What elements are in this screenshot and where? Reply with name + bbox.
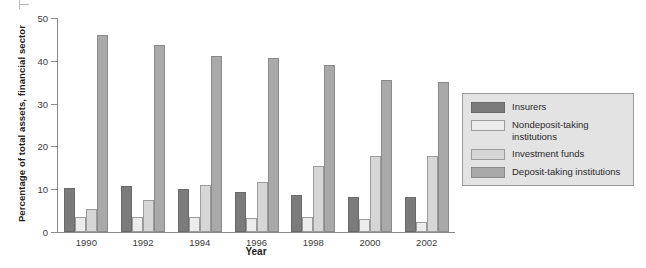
- bar: [97, 35, 108, 232]
- plot-area: 01020304050 1990199219941996199820002002: [57, 18, 455, 233]
- bar-group: 1990: [58, 18, 115, 232]
- y-axis-title: Percentage of total assets, financial se…: [16, 16, 27, 231]
- bar: [200, 185, 211, 232]
- bar: [359, 219, 370, 232]
- legend-swatch: [471, 167, 505, 178]
- bar: [143, 200, 154, 232]
- crop-mark-horizontal: [19, 4, 29, 5]
- bar: [324, 65, 335, 232]
- legend-label: Investment funds: [512, 148, 584, 160]
- bar-group: 1994: [171, 18, 228, 232]
- bar: [313, 166, 324, 232]
- legend-label: Nondeposit-taking institutions: [512, 119, 626, 142]
- bar: [405, 197, 416, 232]
- bar: [291, 195, 302, 232]
- bar-group: 2002: [398, 18, 455, 232]
- bar: [235, 192, 246, 232]
- y-axis-tick: [51, 61, 57, 62]
- legend-swatch: [471, 149, 505, 160]
- y-axis-tick: [51, 104, 57, 105]
- bar: [132, 217, 143, 232]
- legend-swatch: [471, 120, 505, 131]
- legend-item: Deposit-taking institutions: [471, 166, 626, 178]
- bar: [246, 218, 257, 232]
- bar: [64, 188, 75, 232]
- bar-groups: 1990199219941996199820002002: [58, 18, 455, 232]
- bar: [370, 156, 381, 232]
- bar: [268, 58, 279, 232]
- bar-group: 1998: [285, 18, 342, 232]
- y-axis-tick-label: 20: [37, 141, 48, 152]
- bar: [211, 56, 222, 232]
- bar: [438, 82, 449, 232]
- bar: [154, 45, 165, 232]
- bar-group: 2000: [342, 18, 399, 232]
- legend-item: Investment funds: [471, 148, 626, 160]
- bar: [257, 182, 268, 233]
- bar: [416, 222, 427, 232]
- y-axis-tick: [51, 189, 57, 190]
- legend-item: Nondeposit-taking institutions: [471, 119, 626, 142]
- y-axis-tick: [51, 232, 57, 233]
- chart-legend: InsurersNondeposit-taking institutionsIn…: [462, 93, 634, 186]
- y-axis-tick-label: 30: [37, 98, 48, 109]
- bar: [178, 189, 189, 232]
- bar: [121, 186, 132, 232]
- legend-item: Insurers: [471, 101, 626, 113]
- bar: [381, 80, 392, 232]
- bar-group: 1992: [115, 18, 172, 232]
- y-axis-tick: [51, 146, 57, 147]
- x-axis-title: Year: [57, 246, 455, 257]
- y-axis-tick-label: 40: [37, 55, 48, 66]
- legend-swatch: [471, 102, 505, 113]
- bar-chart-figure: Percentage of total assets, financial se…: [0, 0, 646, 268]
- legend-label: Insurers: [512, 101, 546, 113]
- x-axis-line: [57, 232, 455, 233]
- bar: [302, 217, 313, 232]
- bar: [86, 209, 97, 232]
- bar: [75, 217, 86, 232]
- bar: [348, 197, 359, 232]
- y-axis-tick: [51, 18, 57, 19]
- bar-group: 1996: [228, 18, 285, 232]
- y-axis-tick-label: 10: [37, 184, 48, 195]
- y-axis-tick-label: 50: [37, 13, 48, 24]
- bar: [427, 156, 438, 232]
- legend-label: Deposit-taking institutions: [512, 166, 620, 178]
- y-axis-tick-label: 0: [43, 227, 48, 238]
- bar: [189, 217, 200, 232]
